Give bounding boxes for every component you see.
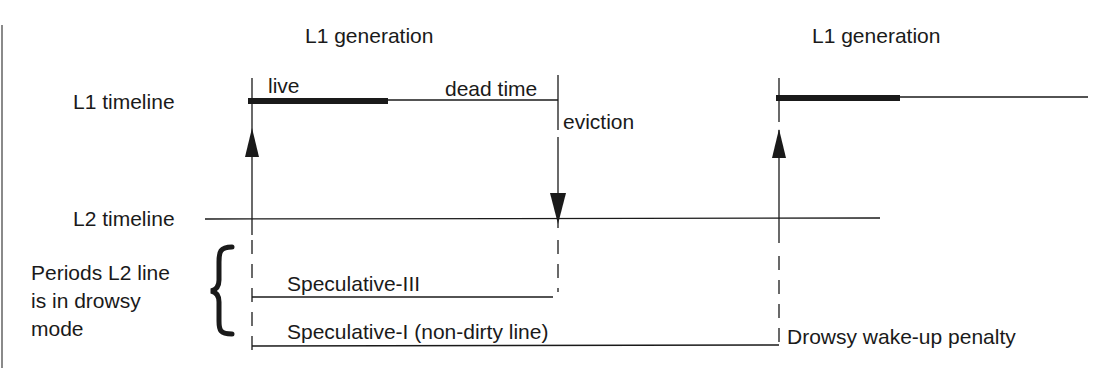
speculative-i-period	[252, 345, 779, 346]
drowsy-legend-line2: is in drowsy	[31, 290, 141, 311]
drowsy-legend-line3: mode	[31, 318, 84, 339]
arrow-up-icon	[772, 129, 786, 158]
arrow-down-icon	[550, 193, 566, 224]
eviction-label: eviction	[563, 111, 634, 132]
drowsy-penalty-label: Drowsy wake-up penalty	[787, 326, 1016, 347]
speculative-i-label: Speculative-I (non-dirty line)	[287, 321, 548, 342]
l2-timeline-label: L2 timeline	[73, 208, 175, 229]
l1-timeline-label: L1 timeline	[73, 91, 175, 112]
drowsy-legend-line1: Periods L2 line	[31, 262, 170, 283]
dead-time-label: dead time	[445, 78, 537, 99]
generation-label-2: L1 generation	[812, 25, 940, 46]
brace-icon	[211, 247, 232, 334]
live-label: live	[268, 75, 300, 96]
speculative-iii-label: Speculative-III	[287, 273, 420, 294]
arrow-up-icon	[245, 128, 259, 157]
generation-label-1: L1 generation	[305, 25, 433, 46]
timeline-diagram	[0, 0, 1102, 368]
